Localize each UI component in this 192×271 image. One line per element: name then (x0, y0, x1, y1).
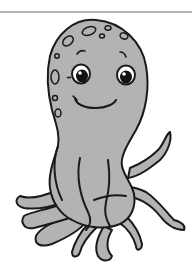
octopus-illustration (0, 0, 192, 271)
right-eye (117, 66, 135, 85)
tentacle-center-right (96, 226, 112, 261)
octopus-body (48, 20, 148, 228)
tentacle-back-right (128, 132, 171, 178)
